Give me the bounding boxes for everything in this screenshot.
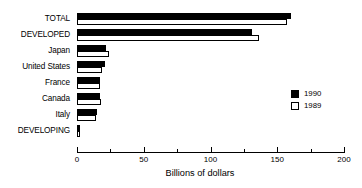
x-tick-label-150: 150	[262, 155, 292, 164]
bar-canada-1989	[77, 99, 101, 105]
bar-italy-1990	[77, 109, 97, 115]
x-tick-label-50: 50	[129, 155, 159, 164]
legend-label-1989: 1989	[304, 102, 321, 110]
x-tick-label-200: 200	[329, 155, 359, 164]
bar-group	[77, 27, 344, 43]
bar-developing-1990	[77, 125, 80, 131]
bar-developing-1989	[77, 131, 80, 137]
x-tick-200	[344, 147, 345, 152]
bar-italy-1989	[77, 115, 96, 121]
bar-total-1990	[77, 13, 291, 19]
bar-united-states-1989	[77, 67, 102, 73]
x-axis-title: Billions of dollars	[0, 168, 362, 179]
x-tick-0	[77, 147, 78, 152]
x-tick-100	[211, 147, 212, 152]
legend-swatch-1990	[291, 90, 299, 98]
x-tick-label-0: 0	[62, 155, 92, 164]
legend-item-1990: 1990	[291, 90, 321, 98]
category-label-developed: DEVELOPED	[0, 30, 70, 39]
x-minor-tick-125	[244, 149, 245, 152]
category-label-united-states: United States	[0, 62, 70, 71]
bar-total-1989	[77, 19, 287, 25]
x-tick-label-100: 100	[196, 155, 226, 164]
bar-group	[77, 11, 344, 27]
x-axis-line	[77, 152, 345, 153]
bar-united-states-1990	[77, 61, 105, 67]
bar-canada-1990	[77, 93, 100, 99]
plot-area	[77, 11, 344, 139]
x-minor-tick-25	[110, 149, 111, 152]
category-label-total: TOTAL	[0, 14, 70, 23]
bar-japan-1990	[77, 45, 106, 51]
category-axis-labels: TOTALDEVELOPEDJapanUnited StatesFranceCa…	[0, 11, 73, 139]
x-tick-50	[144, 147, 145, 152]
legend-item-1989: 1989	[291, 102, 321, 110]
category-label-france: France	[0, 78, 70, 87]
bar-france-1989	[77, 83, 100, 89]
bar-france-1990	[77, 77, 100, 83]
x-tick-150	[277, 147, 278, 152]
bar-group	[77, 59, 344, 75]
x-axis-title-text: Billions of dollars	[166, 168, 235, 179]
x-minor-tick-175	[311, 149, 312, 152]
legend-label-1990: 1990	[304, 90, 321, 98]
category-label-canada: Canada	[0, 94, 70, 103]
category-label-developing: DEVELOPING	[0, 126, 70, 135]
x-minor-tick-75	[177, 149, 178, 152]
category-label-italy: Italy	[0, 110, 70, 119]
legend-swatch-1989	[291, 102, 299, 110]
category-label-japan: Japan	[0, 46, 70, 55]
bar-chart: TOTALDEVELOPEDJapanUnited StatesFranceCa…	[0, 0, 362, 188]
legend: 19901989	[291, 90, 321, 114]
bar-developed-1989	[77, 35, 259, 41]
bar-developed-1990	[77, 29, 252, 35]
bar-group	[77, 43, 344, 59]
bar-japan-1989	[77, 51, 109, 57]
bar-group	[77, 123, 344, 139]
